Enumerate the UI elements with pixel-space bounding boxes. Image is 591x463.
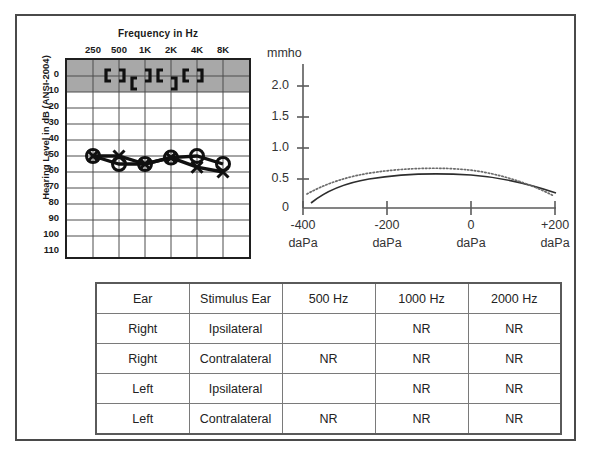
table-cell: NR [282,404,375,435]
table-cell: Ipsilateral [189,314,282,344]
table-row: LeftContralateralNRNRNR [96,404,561,435]
audiogram-db-label: 110 [33,244,59,255]
table-header-cell: 1000 Hz [375,283,468,314]
table-cell: Right [96,344,189,374]
audiogram-plot-area [65,58,251,259]
tympanogram-svg [249,24,574,264]
table-header-cell: Ear [96,283,189,314]
table-cell: Left [96,404,189,435]
tympanogram-curve-solid [311,174,556,203]
table-header-cell: 2000 Hz [468,283,561,314]
audiogram-db-label: 0 [33,68,59,79]
table-cell: NR [468,374,561,404]
audiogram-frequency-label: 250 [80,44,106,55]
audiogram-frequency-label: 2K [158,44,184,55]
table-header-cell: 500 Hz [282,283,375,314]
acoustic-reflex-table: EarStimulus Ear500 Hz1000 Hz2000 HzRight… [95,282,562,435]
table-cell [282,374,375,404]
audiogram-db-label: 60 [33,164,59,175]
table-cell: NR [468,314,561,344]
audiogram-db-label: 80 [33,196,59,207]
audiogram-db-label: 100 [33,228,59,239]
table-cell: NR [468,404,561,435]
table-header-row: EarStimulus Ear500 Hz1000 Hz2000 Hz [96,283,561,314]
audiogram-db-label: 20 [33,100,59,111]
table-cell: NR [468,344,561,374]
table-cell: Left [96,374,189,404]
audiogram-db-label: 10 [33,84,59,95]
audiogram-title: Frequency in Hz [63,28,253,39]
table-cell: NR [375,374,468,404]
audiogram-frequency-label: 8K [210,44,236,55]
table-cell: Contralateral [189,344,282,374]
audiogram-frequency-label: 4K [184,44,210,55]
figure-frame: Frequency in Hz 2505001K2K4K8K Hearing L… [15,14,576,441]
table-row: RightIpsilateralNRNR [96,314,561,344]
table-cell: NR [375,344,468,374]
table-row: RightContralateralNRNRNR [96,344,561,374]
audiogram-frequency-label: 1K [132,44,158,55]
table-cell: NR [375,314,468,344]
table-cell: Ipsilateral [189,374,282,404]
table-header-cell: Stimulus Ear [189,283,282,314]
audiogram-frequency-label: 500 [106,44,132,55]
audiogram-svg [67,60,249,257]
table-row: LeftIpsilateralNRNR [96,374,561,404]
table-cell: Right [96,314,189,344]
table-cell: NR [375,404,468,435]
tympanogram-panel: mmho 2.01.51.00.50 -400daPa-200daPa0daPa… [249,24,574,264]
table-cell [282,314,375,344]
audiogram-panel: Frequency in Hz 2505001K2K4K8K Hearing L… [23,24,268,264]
table-cell: NR [282,344,375,374]
audiogram-db-label: 70 [33,180,59,191]
audiogram-db-label: 50 [33,148,59,159]
audiogram-db-label: 90 [33,212,59,223]
audiogram-db-label: 30 [33,116,59,127]
audiogram-db-label: 40 [33,132,59,143]
table-cell: Contralateral [189,404,282,435]
audiogram-db-axis: 0102030405060708090100110 [33,58,59,258]
